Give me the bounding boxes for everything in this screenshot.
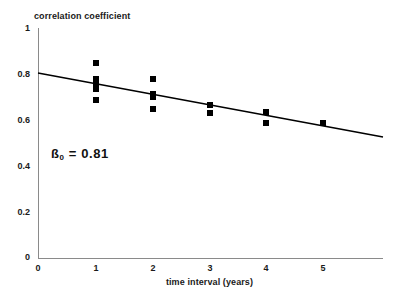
x-axis-tick-label: 2 — [141, 263, 165, 273]
data-point — [207, 102, 213, 108]
data-point — [263, 109, 269, 115]
x-axis-tick-label: 5 — [311, 263, 335, 273]
beta-value: 0.81 — [81, 146, 109, 161]
x-axis-title: time interval (years) — [18, 277, 401, 287]
data-point — [150, 106, 156, 112]
data-point — [150, 94, 156, 100]
data-point — [207, 110, 213, 116]
data-point — [93, 97, 99, 103]
equals-sign: = — [69, 146, 77, 161]
data-point — [93, 86, 99, 92]
scatter-chart: correlation coefficient 1 0.8 0.6 0.4 0.… — [0, 0, 401, 301]
data-point — [263, 120, 269, 126]
data-point — [93, 60, 99, 66]
data-point — [320, 120, 326, 126]
data-point — [150, 76, 156, 82]
beta-subscript: 0 — [60, 153, 65, 162]
x-axis-tick-label: 1 — [84, 263, 108, 273]
x-axis-tick-label: 4 — [254, 263, 278, 273]
beta-symbol: ß — [51, 146, 60, 161]
x-axis-tick-label: 0 — [26, 263, 50, 273]
beta-zero-annotation: ß0 = 0.81 — [51, 146, 109, 161]
x-axis-tick-label: 3 — [198, 263, 222, 273]
